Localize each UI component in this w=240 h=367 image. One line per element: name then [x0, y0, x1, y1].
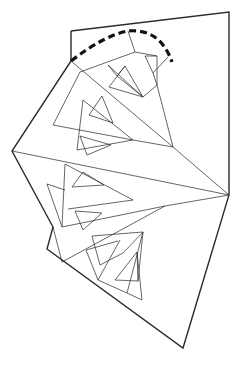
background — [0, 0, 240, 367]
fractal-fold-diagram — [0, 0, 240, 367]
